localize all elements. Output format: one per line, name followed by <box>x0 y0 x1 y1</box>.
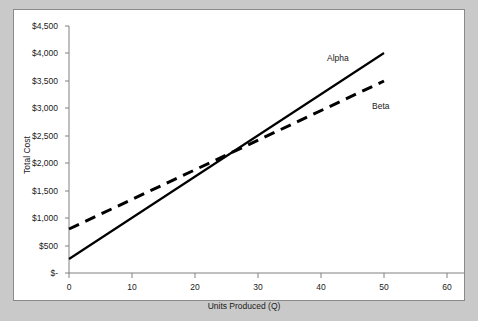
x-tick-label-60: 60 <box>435 282 459 292</box>
chart-panel: $4,500 $4,000 $3,500 $3,000 $2,500 $2,00… <box>13 9 465 301</box>
x-tick-label-50: 50 <box>372 282 396 292</box>
series-label-beta: Beta <box>372 101 390 111</box>
series-label-alpha: Alpha <box>327 53 349 63</box>
y-tick-label-3500: $3,500 <box>10 76 58 86</box>
y-tick-label-3000: $3,000 <box>10 103 58 113</box>
x-axis-title: Units Produced (Q) <box>164 301 324 311</box>
plot-area <box>14 10 464 300</box>
y-tick-label-500: $500 <box>10 241 58 251</box>
chart-page: $4,500 $4,000 $3,500 $3,000 $2,500 $2,00… <box>0 0 478 321</box>
series-line-alpha <box>69 53 384 259</box>
y-tick-marks <box>65 26 69 273</box>
x-tick-label-30: 30 <box>246 282 270 292</box>
y-tick-label-0: $- <box>10 268 58 278</box>
x-tick-label-40: 40 <box>309 282 333 292</box>
x-tick-label-10: 10 <box>120 282 144 292</box>
y-tick-label-4000: $4,000 <box>10 48 58 58</box>
y-tick-label-2000: $2,000 <box>10 158 58 168</box>
y-tick-label-4500: $4,500 <box>10 21 58 31</box>
y-tick-label-1000: $1,000 <box>10 213 58 223</box>
x-tick-label-0: 0 <box>57 282 81 292</box>
x-tick-marks <box>69 273 447 278</box>
y-tick-label-1500: $1,500 <box>10 186 58 196</box>
y-axis-title: Total Cost <box>22 120 32 190</box>
y-tick-label-2500: $2,500 <box>10 131 58 141</box>
x-tick-label-20: 20 <box>183 282 207 292</box>
